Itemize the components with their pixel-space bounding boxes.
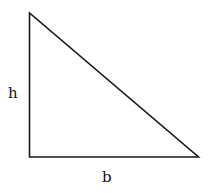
height-label: h bbox=[8, 84, 18, 102]
triangle-diagram: h b bbox=[0, 0, 210, 193]
right-triangle bbox=[30, 13, 199, 157]
base-label: b bbox=[102, 168, 112, 186]
